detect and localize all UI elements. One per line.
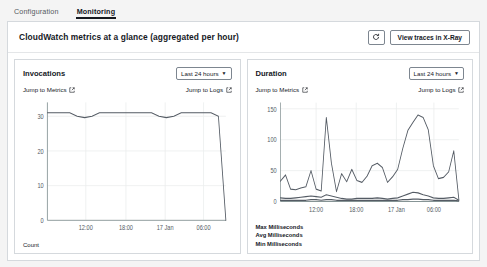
jump-to-logs-label: Jump to Logs: [186, 86, 223, 93]
external-link-icon: [458, 87, 464, 93]
refresh-icon: [372, 33, 380, 41]
jump-to-metrics-link-invocations[interactable]: Jump to Metrics: [23, 86, 75, 93]
invocations-line-chart: 010203012:0018:0017 Jan06:00: [23, 95, 232, 240]
external-link-icon: [302, 87, 308, 93]
time-range-select-invocations[interactable]: Last 24 hours ▼: [176, 67, 231, 80]
card-header-duration: Duration Last 24 hours ▼: [256, 67, 465, 80]
monitoring-page: Configuration Monitoring CloudWatch metr…: [0, 0, 487, 267]
page-title: CloudWatch metrics at a glance (aggregat…: [19, 32, 239, 42]
svg-text:30: 30: [37, 112, 44, 120]
card-invocations: Invocations Last 24 hours ▼ Jump to Metr…: [14, 59, 241, 254]
time-range-label: Last 24 hours: [181, 70, 219, 77]
duration-line-chart: 05010015012:0018:0017 Jan06:00: [256, 95, 465, 222]
card-title-duration: Duration: [256, 69, 287, 78]
tab-bar: Configuration Monitoring: [3, 2, 484, 19]
view-traces-button[interactable]: View traces in X-Ray: [390, 30, 470, 45]
card-duration: Duration Last 24 hours ▼ Jump to Metrics: [247, 59, 474, 254]
legend-item-avg: Avg Milliseconds: [256, 231, 465, 239]
metric-cards: Invocations Last 24 hours ▼ Jump to Metr…: [8, 53, 479, 261]
chart-invocations[interactable]: 010203012:0018:0017 Jan06:00: [23, 95, 232, 240]
time-range-label: Last 24 hours: [414, 70, 452, 77]
jump-to-logs-link-duration[interactable]: Jump to Logs: [418, 86, 464, 93]
svg-text:20: 20: [37, 147, 44, 155]
external-link-icon: [226, 87, 232, 93]
chart-duration[interactable]: 05010015012:0018:0017 Jan06:00: [256, 95, 465, 222]
card-header-invocations: Invocations Last 24 hours ▼: [23, 67, 232, 80]
legend-item-min: Min Milliseconds: [256, 240, 465, 248]
card-links-duration: Jump to Metrics Jump to Logs: [256, 86, 465, 93]
svg-text:12:00: 12:00: [309, 205, 323, 213]
svg-text:06:00: 06:00: [426, 205, 440, 213]
tab-monitoring[interactable]: Monitoring: [77, 7, 116, 19]
tab-configuration[interactable]: Configuration: [14, 7, 59, 19]
svg-text:150: 150: [267, 105, 277, 113]
legend-item-max: Max Milliseconds: [256, 223, 465, 231]
svg-text:50: 50: [270, 167, 276, 175]
svg-text:12:00: 12:00: [79, 223, 93, 231]
chevron-down-icon: ▼: [222, 71, 227, 76]
time-range-select-duration[interactable]: Last 24 hours ▼: [409, 67, 464, 80]
svg-text:17 Jan: 17 Jan: [157, 223, 174, 231]
svg-text:100: 100: [267, 136, 277, 144]
svg-text:0: 0: [41, 216, 44, 224]
header-actions: View traces in X-Ray: [368, 30, 470, 45]
chevron-down-icon: ▼: [454, 71, 459, 76]
svg-text:18:00: 18:00: [349, 205, 363, 213]
legend-duration: Max Milliseconds Avg Milliseconds Min Mi…: [256, 223, 465, 248]
svg-text:10: 10: [37, 182, 44, 190]
panel-header: CloudWatch metrics at a glance (aggregat…: [8, 22, 479, 53]
refresh-button[interactable]: [368, 30, 385, 45]
metrics-panel: CloudWatch metrics at a glance (aggregat…: [7, 21, 480, 261]
jump-to-metrics-label: Jump to Metrics: [256, 86, 300, 93]
card-title-invocations: Invocations: [23, 69, 65, 78]
jump-to-logs-link-invocations[interactable]: Jump to Logs: [186, 86, 232, 93]
svg-text:17 Jan: 17 Jan: [387, 205, 404, 213]
svg-text:18:00: 18:00: [119, 223, 133, 231]
jump-to-metrics-label: Jump to Metrics: [23, 86, 67, 93]
jump-to-logs-label: Jump to Logs: [418, 86, 455, 93]
jump-to-metrics-link-duration[interactable]: Jump to Metrics: [256, 86, 308, 93]
svg-text:0: 0: [273, 198, 276, 206]
axis-label-count: Count: [23, 242, 232, 248]
svg-text:06:00: 06:00: [197, 223, 211, 231]
external-link-icon: [69, 87, 75, 93]
card-links-invocations: Jump to Metrics Jump to Logs: [23, 86, 232, 93]
